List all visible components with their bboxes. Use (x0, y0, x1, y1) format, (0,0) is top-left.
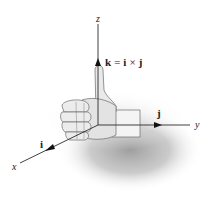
eq-equals: = (114, 56, 120, 68)
i-unit-vector-label: i (40, 138, 43, 150)
z-axis-label: z (95, 13, 100, 24)
j-unit-vector-label: j (156, 107, 161, 119)
cross-product-equation: k=i×j (105, 56, 142, 68)
y-axis-label: y (194, 119, 200, 130)
right-hand-thumbs-up (61, 66, 116, 141)
right-hand-rule-diagram: z y j x i k=i×j (0, 0, 213, 199)
eq-i: i (123, 56, 126, 68)
x-axis-label: x (11, 161, 17, 172)
eq-times: × (129, 56, 135, 68)
eq-j: j (138, 56, 143, 68)
eq-k: k (105, 56, 112, 68)
